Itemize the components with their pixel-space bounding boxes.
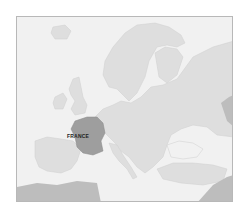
- iberia: [35, 137, 81, 173]
- great-britain: [69, 77, 87, 115]
- ireland: [53, 93, 67, 109]
- map-frame: FRANCE: [16, 16, 233, 202]
- turkey: [157, 163, 227, 185]
- black-sea: [167, 141, 203, 159]
- europe-map: [17, 17, 233, 202]
- north-africa: [17, 181, 101, 202]
- france-label: FRANCE: [67, 133, 89, 139]
- iceland: [51, 25, 71, 39]
